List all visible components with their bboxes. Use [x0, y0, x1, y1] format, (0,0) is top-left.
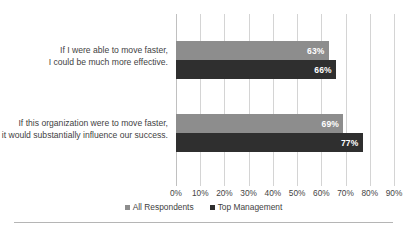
gridline-90 — [394, 14, 395, 186]
bar-row-0-0: 63% — [176, 41, 394, 60]
x-tick-label-90: 90% — [386, 188, 403, 198]
legend-item-all-respondents[interactable]: All Respondents — [125, 202, 194, 212]
chart-legend: All Respondents Top Management — [0, 202, 407, 212]
plot-area: 63% 66% 69% 77% — [176, 14, 394, 186]
x-tick-label-80: 80% — [361, 188, 378, 198]
x-tick-label-50: 50% — [289, 188, 306, 198]
category-label-1-line-0: If this organization were to move faster… — [0, 118, 168, 130]
bar-all-respondents-1[interactable]: 69% — [176, 114, 343, 133]
legend-item-top-management[interactable]: Top Management — [210, 202, 283, 212]
category-label-1-line-1: it would substantially influence our suc… — [0, 130, 168, 142]
bottom-divider — [14, 222, 393, 223]
bar-chart: If I were able to move faster, I could b… — [0, 0, 407, 235]
bar-group-0: 63% 66% — [176, 41, 394, 79]
category-label-0-line-1: I could be much more effective. — [0, 57, 168, 69]
x-tick-label-70: 70% — [337, 188, 354, 198]
bar-row-0-1: 66% — [176, 60, 394, 79]
bar-row-1-1: 77% — [176, 133, 394, 152]
bar-value-all-respondents-1: 69% — [322, 119, 340, 128]
x-axis-ticks: 0%10%20%30%40%50%60%70%80%90% — [176, 186, 394, 200]
bar-top-management-1[interactable]: 77% — [176, 133, 363, 152]
bar-groups: 63% 66% 69% 77% — [176, 14, 394, 186]
x-tick-label-10: 10% — [192, 188, 209, 198]
category-axis-labels: If I were able to move faster, I could b… — [0, 14, 172, 186]
legend-swatch-icon-top-management — [210, 205, 215, 210]
category-label-0-line-0: If I were able to move faster, — [0, 45, 168, 57]
bar-group-1: 69% 77% — [176, 114, 394, 152]
legend-swatch-icon-all-respondents — [125, 205, 130, 210]
bar-value-top-management-1: 77% — [341, 138, 359, 147]
legend-label-top-management: Top Management — [218, 202, 283, 212]
category-label-0: If I were able to move faster, I could b… — [0, 45, 168, 68]
bar-row-1-0: 69% — [176, 114, 394, 133]
x-tick-label-30: 30% — [240, 188, 257, 198]
bar-all-respondents-0[interactable]: 63% — [176, 41, 329, 60]
bar-top-management-0[interactable]: 66% — [176, 60, 336, 79]
category-label-1: If this organization were to move faster… — [0, 118, 168, 141]
bar-value-top-management-0: 66% — [314, 65, 332, 74]
x-tick-label-40: 40% — [265, 188, 282, 198]
x-tick-label-20: 20% — [216, 188, 233, 198]
bar-value-all-respondents-0: 63% — [307, 46, 325, 55]
legend-label-all-respondents: All Respondents — [133, 202, 194, 212]
x-tick-label-0: 0% — [170, 188, 182, 198]
x-tick-label-60: 60% — [313, 188, 330, 198]
